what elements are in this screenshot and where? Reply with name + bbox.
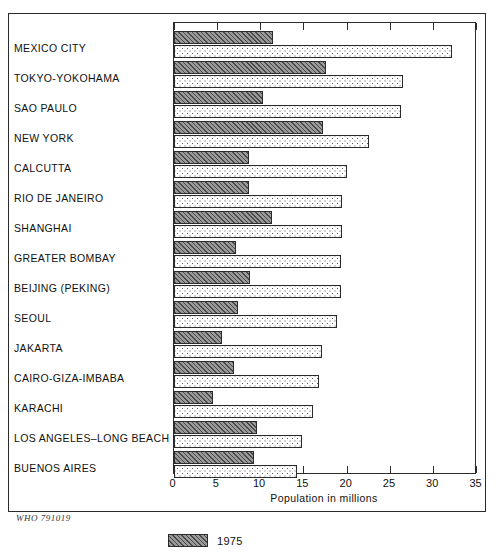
- bar-1975: [174, 31, 274, 44]
- x-axis-tick-mark: [476, 23, 477, 30]
- bar-2000: [174, 135, 370, 148]
- bar-2000: [174, 285, 341, 298]
- bar-1975: [174, 271, 250, 284]
- category-label: RIO DE JANEIRO: [14, 192, 166, 204]
- category-label-column: MEXICO CITYTOKYO-YOKOHAMASAO PAULONEW YO…: [14, 24, 166, 474]
- x-axis-tick-label: 10: [253, 477, 265, 489]
- bar-group: [174, 361, 475, 388]
- x-axis-tick-label: 0: [169, 477, 175, 489]
- x-axis-tick-label: 25: [383, 477, 395, 489]
- bar-2000: [174, 345, 322, 358]
- bar-1975: [174, 181, 249, 194]
- x-axis-tick-mark: [476, 466, 477, 473]
- bar-group: [174, 421, 475, 448]
- category-label: BUENOS AIRES: [14, 462, 166, 474]
- category-label: BEIJING (PEKING): [14, 282, 166, 294]
- x-axis-tick-labels: 05101520253035: [173, 477, 476, 493]
- x-axis-tick-label: 20: [340, 477, 352, 489]
- category-label: KARACHI: [14, 402, 166, 414]
- bar-1975: [174, 211, 273, 224]
- bar-2000: [174, 105, 402, 118]
- bar-1975: [174, 301, 239, 314]
- bar-group: [174, 181, 475, 208]
- bar-2000: [174, 45, 453, 58]
- bar-2000: [174, 255, 342, 268]
- bar-1975: [174, 361, 235, 374]
- category-label: CALCUTTA: [14, 162, 166, 174]
- bar-group: [174, 31, 475, 58]
- source-note: WHO 791019: [16, 513, 71, 523]
- x-axis-tick-mark: [174, 23, 175, 30]
- bar-1975: [174, 151, 249, 164]
- bar-2000: [174, 405, 313, 418]
- x-axis-tick-mark: [347, 23, 348, 30]
- bar-2000: [174, 75, 403, 88]
- x-axis-tick-mark: [390, 23, 391, 30]
- bar-1975: [174, 61, 326, 74]
- bar-group: [174, 61, 475, 88]
- plot-area: [173, 22, 476, 474]
- x-axis-tick-label: 35: [469, 477, 481, 489]
- x-axis-tick-mark: [433, 23, 434, 30]
- category-label: SHANGHAI: [14, 222, 166, 234]
- category-label: MEXICO CITY: [14, 42, 166, 54]
- category-label: SAO PAULO: [14, 102, 166, 114]
- x-axis-title: Population in millions: [173, 492, 476, 504]
- bar-group: [174, 391, 475, 418]
- category-label: TOKYO-YOKOHAMA: [14, 72, 166, 84]
- category-label: GREATER BOMBAY: [14, 252, 166, 264]
- x-axis-tick-mark: [260, 23, 261, 30]
- bar-1975: [174, 451, 255, 464]
- bar-group: [174, 91, 475, 118]
- bar-group: [174, 151, 475, 178]
- legend-label-1975: 1975: [217, 535, 243, 547]
- x-axis-tick-label: 15: [296, 477, 308, 489]
- bar-2000: [174, 435, 302, 448]
- bar-2000: [174, 195, 343, 208]
- bar-group: [174, 241, 475, 268]
- bar-group: [174, 331, 475, 358]
- x-axis-tick-label: 30: [426, 477, 438, 489]
- x-axis-tick-mark: [303, 23, 304, 30]
- bar-1975: [174, 241, 236, 254]
- x-axis-tick-mark: [217, 23, 218, 30]
- legend-swatch-1975: [168, 534, 208, 547]
- x-axis-tick-label: 5: [213, 477, 219, 489]
- category-label: JAKARTA: [14, 342, 166, 354]
- bar-group: [174, 211, 475, 238]
- category-label: SEOUL: [14, 312, 166, 324]
- population-bar-chart-figure: MEXICO CITYTOKYO-YOKOHAMASAO PAULONEW YO…: [0, 0, 496, 557]
- plot-inner: [174, 23, 475, 473]
- bar-2000: [174, 375, 319, 388]
- bar-1975: [174, 91, 263, 104]
- bar-1975: [174, 331, 222, 344]
- bar-2000: [174, 225, 343, 238]
- bar-group: [174, 451, 475, 478]
- category-label: CAIRO-GIZA-IMBABA: [14, 372, 166, 384]
- bar-1975: [174, 391, 214, 404]
- bar-group: [174, 301, 475, 328]
- bar-1975: [174, 121, 324, 134]
- bar-group: [174, 271, 475, 298]
- bar-1975: [174, 421, 257, 434]
- category-label: LOS ANGELES–LONG BEACH: [14, 432, 166, 444]
- bar-2000: [174, 315, 338, 328]
- bar-group: [174, 121, 475, 148]
- legend: 1975: [168, 534, 243, 547]
- bar-2000: [174, 165, 347, 178]
- category-label: NEW YORK: [14, 132, 166, 144]
